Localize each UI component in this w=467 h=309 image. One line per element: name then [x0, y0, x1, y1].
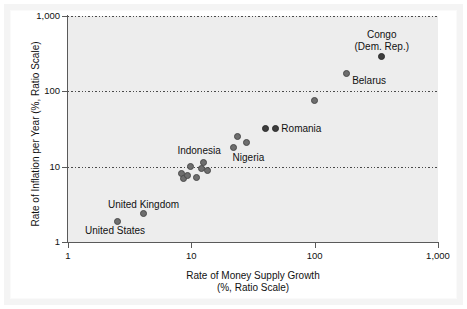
x-axis-title-line1: Rate of Money Supply Growth [68, 270, 438, 282]
belarus-label-line1: Belarus [352, 75, 386, 87]
united-states-label: United States [85, 225, 145, 237]
nigeria-label-line1: Nigeria [233, 152, 265, 164]
x-axis-title-line2: (%, Ratio Scale) [68, 282, 438, 294]
data-point-united-states[interactable] [114, 218, 121, 225]
indonesia-label-line1: Indonesia [177, 145, 220, 157]
x-tick-label-100: 100 [285, 250, 345, 261]
data-point-united-kingdom[interactable] [140, 210, 147, 217]
gridline-y-100 [68, 91, 438, 92]
y-tick-label-10: 10 [14, 161, 60, 172]
y-tick-1000 [62, 16, 68, 17]
x-axis-line [67, 242, 439, 243]
belarus-label: Belarus [352, 75, 386, 87]
gridline-y-1000 [68, 16, 438, 17]
y-axis-line [67, 15, 68, 243]
data-point-nigeria[interactable] [230, 144, 237, 151]
y-tick-label-100: 100 [14, 85, 60, 96]
congo-label-line1: Congo [355, 29, 409, 41]
romania-label: Romania [281, 123, 321, 135]
y-tick-100 [62, 91, 68, 92]
united-kingdom-label-line1: United Kingdom [108, 199, 179, 211]
congo-label-line2: (Dem. Rep.) [355, 41, 409, 53]
y-axis-title: Rate of Inflation per Year (%, Ratio Sca… [30, 34, 42, 234]
united-states-label-line1: United States [85, 225, 145, 237]
x-tick-1 [68, 242, 69, 248]
x-tick-1000 [438, 242, 439, 248]
indonesia-label: Indonesia [177, 145, 220, 157]
x-tick-label-10: 10 [161, 250, 221, 261]
y-axis-title-wrapper: Rate of Inflation per Year (%, Ratio Sca… [22, 20, 36, 240]
data-point-romania[interactable] [272, 125, 279, 132]
data-point-11[interactable] [234, 133, 241, 140]
data-point-9[interactable] [204, 167, 211, 174]
x-axis-title: Rate of Money Supply Growth (%, Ratio Sc… [68, 270, 438, 294]
romania-label-line1: Romania [281, 123, 321, 135]
x-tick-label-1: 1 [38, 250, 98, 261]
nigeria-label: Nigeria [233, 152, 265, 164]
y-tick-10 [62, 167, 68, 168]
inflation-vs-money-growth-scatter-figure: Rate of Inflation per Year (%, Ratio Sca… [0, 0, 467, 309]
x-tick-label-1000: 1,000 [408, 250, 467, 261]
y-tick-label-1: 1 [14, 236, 60, 247]
y-tick-label-1000: 1,000 [14, 10, 60, 21]
x-tick-100 [315, 242, 316, 248]
congo-label: Congo(Dem. Rep.) [355, 29, 409, 52]
x-tick-10 [191, 242, 192, 248]
gridline-y-10 [68, 167, 438, 168]
data-point-12[interactable] [243, 139, 250, 146]
united-kingdom-label: United Kingdom [108, 199, 179, 211]
